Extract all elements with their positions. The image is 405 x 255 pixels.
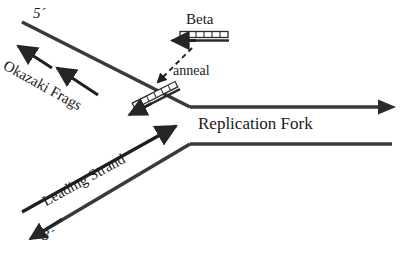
diagram-canvas: 5´ 3´ Beta anneal Replication Fork Okaza… (0, 0, 405, 255)
beta-clamp-free (172, 32, 229, 41)
label-beta: Beta (186, 12, 214, 27)
duplex-top-strand (190, 100, 396, 115)
label-five-prime: 5´ (33, 6, 46, 21)
beta-clamp-free-segments (180, 32, 228, 38)
label-anneal: anneal (173, 64, 210, 78)
duplex-top-arrowhead (378, 100, 396, 115)
label-replication-fork: Replication Fork (198, 115, 313, 132)
label-three-prime: 3´ (42, 228, 55, 243)
